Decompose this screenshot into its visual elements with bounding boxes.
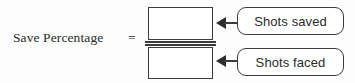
fraction-bar-upper — [145, 41, 216, 43]
equals-sign: = — [128, 29, 136, 47]
callout-shots-faced-label: Shots faced — [256, 55, 326, 70]
numerator-blank-box — [148, 7, 213, 40]
denominator-blank-box — [148, 47, 213, 79]
callout-shots-saved-label: Shots saved — [254, 14, 327, 29]
arrow-shaft — [224, 22, 238, 24]
fraction-bar-lower — [145, 44, 216, 46]
denominator-left-arrow-icon — [216, 54, 238, 68]
callout-shots-faced: Shots faced — [237, 48, 344, 76]
diagram-canvas: Save Percentage = Shots saved Shots face… — [0, 0, 355, 83]
numerator-left-arrow-icon — [216, 16, 238, 30]
formula-left-term: Save Percentage — [13, 29, 103, 47]
callout-shots-saved: Shots saved — [237, 7, 344, 35]
arrow-shaft — [224, 60, 238, 62]
